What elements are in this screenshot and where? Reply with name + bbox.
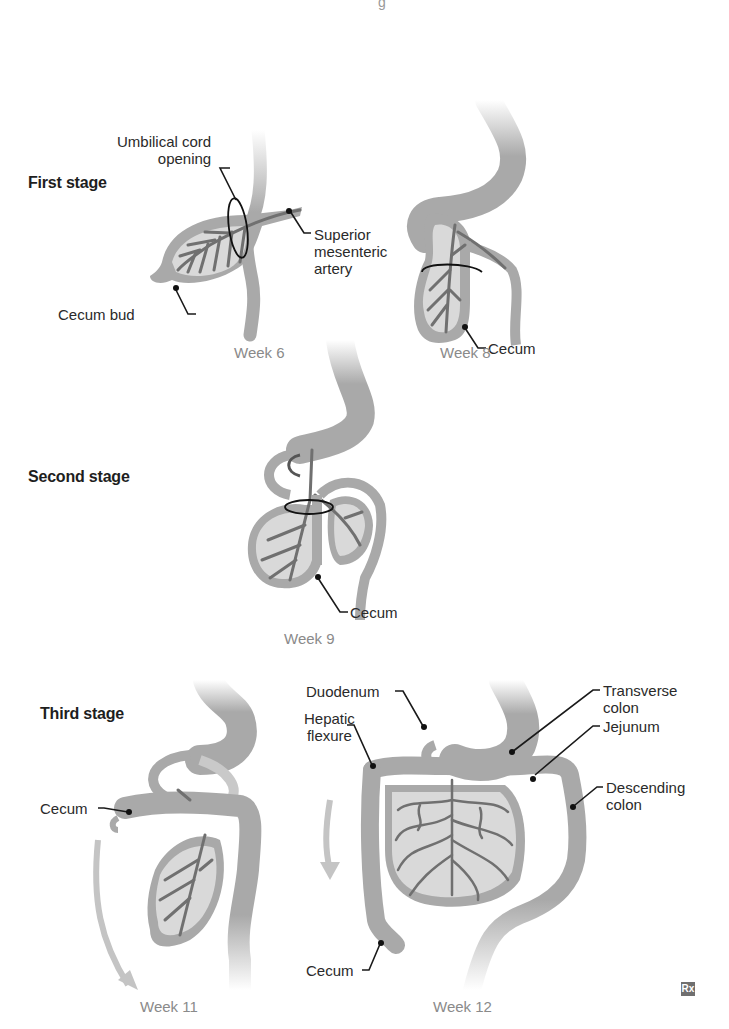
stage-title-first: First stage — [28, 174, 107, 192]
stage-title-third: Third stage — [40, 705, 124, 723]
label-superior-mesenteric-artery: Superior mesenteric artery — [314, 226, 387, 277]
week-label-11: Week 11 — [140, 998, 198, 1015]
label-cecum-week11: Cecum — [40, 800, 88, 817]
label-line: Descending — [606, 779, 685, 796]
label-line: Umbilical cord — [117, 133, 211, 150]
label-descending-colon: Descending colon — [606, 779, 685, 813]
label-line: Hepatic — [304, 710, 355, 727]
label-line: opening — [117, 150, 211, 167]
week12-diagram — [320, 680, 603, 990]
label-umbilical-cord-opening: Umbilical cord opening — [117, 133, 211, 167]
label-hepatic-flexure: Hepatic flexure — [304, 710, 355, 744]
label-line: Superior — [314, 226, 387, 243]
week-label-12: Week 12 — [433, 998, 492, 1015]
label-line: Transverse — [603, 682, 677, 699]
week-label-8: Week 8 — [440, 344, 491, 361]
label-cecum-bud: Cecum bud — [58, 306, 135, 323]
label-line: mesenteric — [314, 243, 387, 260]
label-cecum-week9: Cecum — [350, 604, 398, 621]
label-jejunum: Jejunum — [603, 718, 660, 735]
label-line: colon — [606, 796, 685, 813]
label-duodenum: Duodenum — [306, 683, 379, 700]
midgut-rotation-illustration — [0, 0, 729, 1029]
week11-diagram — [96, 680, 250, 990]
week-label-9: Week 9 — [284, 630, 335, 647]
week-label-6: Week 6 — [234, 344, 285, 361]
label-line: colon — [603, 699, 677, 716]
label-transverse-colon: Transverse colon — [603, 682, 677, 716]
rx-logo-icon: Rx — [681, 982, 695, 996]
label-line: flexure — [304, 727, 355, 744]
label-cecum-week8: Cecum — [488, 340, 536, 357]
week8-diagram — [414, 100, 517, 348]
stage-title-second: Second stage — [28, 468, 130, 486]
week9-diagram — [248, 340, 381, 620]
label-cecum-week12: Cecum — [306, 962, 354, 979]
label-line: artery — [314, 260, 387, 277]
